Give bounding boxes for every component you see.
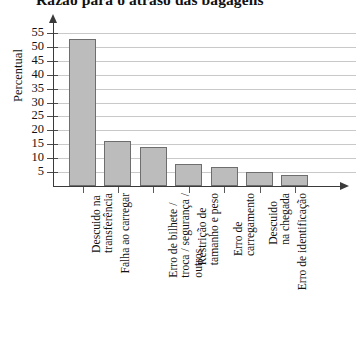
- x-axis-category-label: Restrição detamanho e peso: [197, 193, 222, 265]
- bar: [246, 172, 273, 186]
- gridline: [53, 172, 356, 173]
- gridline: [53, 33, 356, 34]
- y-axis-tick-label: 45: [14, 54, 44, 66]
- x-axis-arrow-icon: [340, 182, 349, 190]
- gridline: [53, 47, 356, 48]
- bar: [175, 164, 202, 186]
- x-axis-label-line: carregamento: [245, 193, 257, 256]
- gridline: [53, 89, 356, 90]
- x-axis-label-line: transferência: [103, 193, 115, 253]
- x-axis-tick: [153, 187, 154, 193]
- x-axis-category-label: Erro decarregamento: [233, 193, 258, 256]
- y-axis-tick-label: 5: [14, 165, 44, 177]
- x-axis-category-label: Falha ao carregar: [120, 193, 132, 273]
- x-axis-label-line: Falha ao carregar: [120, 193, 132, 273]
- bar: [140, 147, 167, 186]
- x-axis-category-label: Descuidona chegada: [268, 193, 293, 245]
- bar: [69, 39, 96, 186]
- y-axis-tick-label: 50: [14, 40, 44, 52]
- x-axis-tick: [224, 187, 225, 193]
- y-axis-tick-label: 35: [14, 82, 44, 94]
- bar: [211, 167, 238, 186]
- x-axis-label-line: na chegada: [280, 193, 292, 245]
- x-axis-tick: [118, 187, 119, 193]
- bar-chart: Razão para o atraso das bagagens Percent…: [0, 0, 356, 338]
- bar: [104, 141, 131, 186]
- y-axis-tick-label: 55: [14, 26, 44, 38]
- x-axis-category-label: Erro de identificação: [297, 193, 309, 290]
- gridline: [53, 130, 356, 131]
- gridline: [53, 144, 356, 145]
- y-axis-tick-label: 15: [14, 137, 44, 149]
- y-axis-line: [53, 21, 54, 187]
- x-axis-tick: [295, 187, 296, 193]
- x-axis-line: [53, 186, 341, 187]
- bar: [281, 175, 308, 186]
- y-axis-arrow-icon: [49, 14, 57, 23]
- gridline: [53, 158, 356, 159]
- x-axis-label-line: Erro de identificação: [297, 193, 309, 290]
- gridline: [53, 103, 356, 104]
- gridline: [53, 61, 356, 62]
- x-axis-label-line: tamanho e peso: [210, 193, 222, 265]
- y-axis-tick-label: 25: [14, 109, 44, 121]
- x-axis-category-label: Descuido natransferência: [91, 193, 116, 253]
- y-axis-tick-label: 40: [14, 68, 44, 80]
- y-axis-tick-label: 20: [14, 123, 44, 135]
- x-axis-tick: [83, 187, 84, 193]
- x-axis-label-line: Erro de: [233, 193, 245, 256]
- y-axis-tick-label: 30: [14, 96, 44, 108]
- x-axis-label-line: troca / segurança /: [180, 193, 192, 278]
- gridline: [53, 116, 356, 117]
- gridline: [53, 75, 356, 76]
- x-axis-tick: [260, 187, 261, 193]
- y-axis-tick-label: 10: [14, 151, 44, 163]
